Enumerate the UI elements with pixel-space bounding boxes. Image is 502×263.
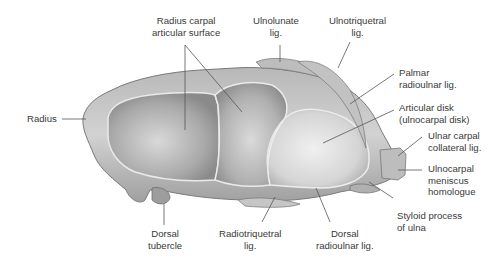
label-dorsal-radioulnar-lig: Dorsal radioulnar lig.: [316, 228, 374, 251]
label-radius: Radius: [27, 113, 57, 125]
label-styloid-process-of-ulna: Styloid process of ulna: [397, 210, 462, 233]
label-palmar-radioulnar-lig: Palmar radioulnar lig.: [399, 67, 457, 90]
label-ulnar-carpal-collateral-lig: Ulnar carpal collateral lig.: [428, 130, 481, 153]
label-articular-disk: Articular disk (ulnocarpal disk): [399, 102, 469, 125]
label-radiotriquetral-lig: Radiotriquetral lig.: [219, 228, 281, 251]
label-ulnocarpal-meniscus-homologue: Ulnocarpal meniscus homologue: [428, 163, 475, 198]
label-dorsal-tubercle: Dorsal tubercle: [148, 228, 182, 251]
label-radius-carpal-articular-surface: Radius carpal articular surface: [152, 15, 220, 38]
anatomy-figure: Radius carpal articular surface Ulnoluna…: [0, 0, 502, 263]
label-ulnolunate-lig: Ulnolunate lig.: [253, 15, 299, 38]
label-ulnotriquetral-lig: Ulnotriquetral lig.: [329, 15, 386, 38]
